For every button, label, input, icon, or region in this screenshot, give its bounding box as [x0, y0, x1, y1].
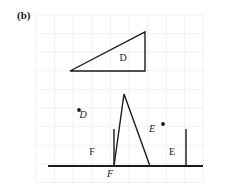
region-label-e: E [169, 146, 175, 157]
point-label-e: E [148, 123, 155, 134]
lower-left-triangle-f [48, 129, 114, 166]
geometry-figure: D F E D E F [0, 0, 225, 189]
upper-triangle-d [70, 32, 145, 71]
region-label-f: F [89, 146, 95, 157]
tall-triangle [114, 94, 150, 166]
figure-panel: (b) D F E D E F [0, 0, 225, 189]
point-label-d: D [78, 109, 87, 120]
background-grid [36, 15, 203, 182]
region-label-d: D [119, 52, 126, 63]
point-label-f: F [106, 168, 114, 179]
point-marker-e-dot [161, 122, 165, 126]
